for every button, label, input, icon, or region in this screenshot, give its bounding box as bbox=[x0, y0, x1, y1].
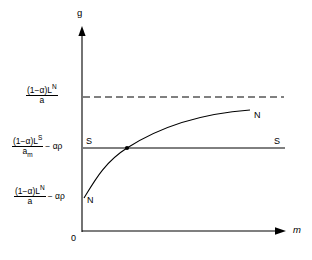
x-axis bbox=[82, 227, 286, 234]
y-tick-lower-fraction: (1−α)LN a bbox=[14, 187, 46, 206]
plot-canvas bbox=[0, 0, 312, 260]
n-schedule-curve bbox=[84, 110, 250, 198]
y-tick-middle-tail: − αρ bbox=[45, 141, 62, 151]
y-tick-upper-numerator-sup: N bbox=[52, 83, 57, 90]
figure-container: g m 0 (1−α)LN a (1−α)LS am − αρ (1−α)LN … bbox=[0, 0, 312, 260]
n-label-left: N bbox=[87, 196, 94, 205]
y-tick-upper-denominator: a bbox=[38, 96, 45, 105]
y-tick-lower-tail: − αρ bbox=[48, 191, 65, 201]
y-tick-middle: (1−α)LS am − αρ bbox=[12, 137, 62, 156]
y-axis-label: g bbox=[77, 8, 82, 18]
n-label-right: N bbox=[254, 111, 261, 120]
s-label-left: S bbox=[86, 137, 92, 146]
y-axis bbox=[78, 26, 85, 232]
y-tick-lower-numerator-sup: N bbox=[40, 184, 45, 191]
intersection-point-dot bbox=[125, 146, 129, 150]
y-tick-middle-numerator: (1−α)LS bbox=[12, 137, 43, 147]
y-tick-middle-numerator-sup: S bbox=[38, 134, 42, 141]
y-tick-middle-denominator: am bbox=[22, 147, 34, 156]
y-tick-lower: (1−α)LN a − αρ bbox=[14, 187, 65, 206]
y-tick-upper: (1−α)LN a bbox=[26, 86, 60, 105]
s-label-right: S bbox=[274, 137, 280, 146]
y-tick-middle-fraction: (1−α)LS am bbox=[12, 137, 43, 156]
y-tick-lower-denominator: a bbox=[26, 197, 33, 206]
y-tick-upper-fraction: (1−α)LN a bbox=[26, 86, 58, 105]
x-axis-label: m bbox=[293, 225, 301, 235]
y-tick-middle-denominator-sub: m bbox=[27, 151, 32, 158]
origin-label: 0 bbox=[71, 234, 76, 243]
